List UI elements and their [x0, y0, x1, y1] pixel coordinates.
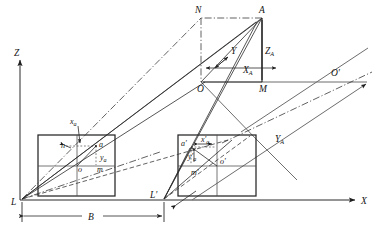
label-m: m — [97, 165, 103, 174]
label-M: M — [258, 84, 268, 94]
right-rays-group — [164, 18, 262, 199]
label-xa-right: x'a — [200, 135, 209, 145]
label-aprime: a' — [181, 139, 187, 148]
label-xa-left: xa — [69, 117, 77, 127]
label-Lprime: L' — [149, 190, 158, 200]
y-parallel-dashdot — [222, 72, 372, 143]
label-Y: Y — [231, 46, 238, 56]
label-ZA: ZA — [265, 46, 274, 57]
labels-group: Z X L A N O M Y XA ZA YA O' n a o m xa y… — [10, 5, 368, 222]
label-YA: YA — [275, 134, 284, 145]
left-n-arrow — [64, 145, 71, 148]
label-x-axis: X — [360, 196, 368, 206]
y-parallel-lines-group — [176, 48, 372, 205]
diagram-canvas: Z X L A N O M Y XA ZA YA O' n a o m xa y… — [0, 0, 381, 234]
label-B: B — [88, 212, 94, 222]
label-O: O — [197, 84, 204, 94]
label-N: N — [194, 5, 202, 15]
label-o: o — [78, 165, 82, 174]
photogrammetry-diagram: Z X L A N O M Y XA ZA YA O' n a o m xa y… — [0, 0, 381, 234]
left-o-to-a — [77, 146, 96, 166]
left-point-a-dot — [95, 145, 97, 147]
ray-Lp-to-ap — [164, 148, 190, 199]
label-n: n — [61, 141, 65, 150]
label-A: A — [258, 5, 265, 15]
label-L: L — [10, 197, 16, 207]
ya-line-lower — [258, 141, 297, 180]
label-a: a — [99, 140, 103, 149]
ray-L-to-A-second — [22, 22, 256, 199]
label-ya-left: ya — [99, 153, 107, 163]
ground-left-arrow — [176, 191, 196, 205]
ray-L-dashdot-2 — [22, 152, 160, 199]
label-ya-right: y'a — [187, 152, 196, 162]
label-Oprime: O' — [331, 68, 341, 78]
label-z-axis: Z — [14, 48, 20, 58]
y-axis-arrow-up — [215, 57, 228, 68]
label-mprime: m' — [191, 168, 199, 177]
label-oprime-photo: o' — [220, 157, 226, 166]
ray-L-to-N-dashdot — [22, 18, 201, 199]
label-XA: XA — [242, 65, 253, 76]
y-axis-arrow-group — [215, 57, 228, 68]
